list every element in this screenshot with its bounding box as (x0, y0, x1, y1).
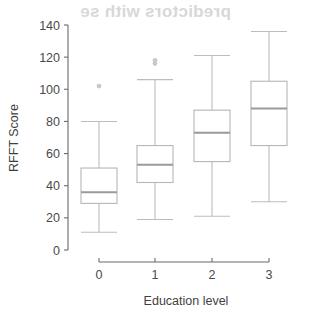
box-group-2 (194, 56, 230, 217)
x-axis: 0123 (96, 258, 273, 282)
box-group-1 (137, 58, 173, 220)
box-3 (251, 81, 287, 145)
y-tick-label-120: 120 (39, 51, 60, 65)
box-0 (81, 168, 117, 203)
outlier-1-1 (153, 58, 158, 63)
y-axis: 020406080100120140 (39, 19, 68, 258)
box-series (81, 31, 287, 232)
box-group-0 (81, 84, 117, 233)
y-tick-label-100: 100 (39, 83, 60, 97)
box-group-3 (251, 31, 287, 201)
x-tick-label-2: 2 (209, 268, 216, 282)
outlier-0-0 (97, 84, 102, 89)
x-tick-label-3: 3 (266, 268, 273, 282)
y-tick-label-20: 20 (46, 211, 60, 225)
x-tick-label-1: 1 (152, 268, 159, 282)
boxplot-canvas: 020406080100120140 0123 RFFT Score Educa… (0, 0, 311, 325)
x-tick-label-0: 0 (96, 268, 103, 282)
y-tick-label-140: 140 (39, 19, 60, 33)
y-axis-title: RFFT Score (7, 104, 21, 172)
box-2 (194, 110, 230, 161)
boxplot-figure: predictors with se 020406080100120140 01… (0, 0, 311, 325)
y-tick-label-80: 80 (46, 115, 60, 129)
y-tick-label-0: 0 (53, 244, 60, 258)
y-tick-label-60: 60 (46, 147, 60, 161)
y-tick-label-40: 40 (46, 179, 60, 193)
x-axis-title: Education level (144, 294, 229, 308)
